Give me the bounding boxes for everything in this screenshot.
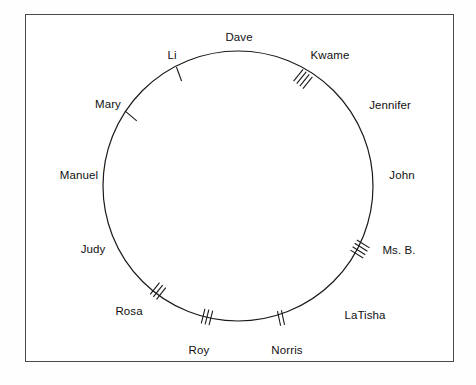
- person-label-manuel: Manuel: [60, 170, 98, 182]
- person-label-latisha: LaTisha: [344, 310, 385, 322]
- person-label-dave: Dave: [225, 32, 252, 44]
- figure-root: DaveKwameJenniferJohnMs. B.LaTishaNorris…: [0, 0, 476, 385]
- person-label-john: John: [389, 170, 414, 182]
- person-label-mary: Mary: [95, 99, 121, 111]
- figure-frame-border: [25, 14, 454, 362]
- person-label-jennifer: Jennifer: [369, 100, 411, 112]
- person-label-kwame: Kwame: [311, 50, 350, 62]
- person-label-li: Li: [167, 50, 176, 62]
- person-label-judy: Judy: [81, 244, 106, 256]
- person-label-rosa: Rosa: [115, 306, 142, 318]
- person-label-norris: Norris: [271, 345, 302, 357]
- person-label-roy: Roy: [189, 345, 210, 357]
- person-label-ms-b: Ms. B.: [382, 245, 415, 257]
